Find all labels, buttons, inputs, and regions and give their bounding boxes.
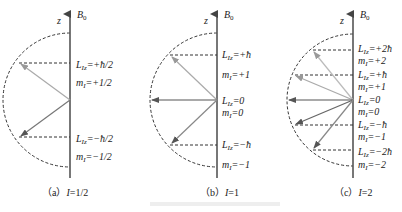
spin-vector-minus1 bbox=[296, 100, 353, 124]
panel-a: z B0 LIz=+ħ/2 mI=+1/2 LIz=−ħ/2 mI=−1/2 （… bbox=[3, 9, 113, 198]
spin-vector-minus2 bbox=[314, 100, 353, 148]
state-label-m: mI=−1 bbox=[358, 131, 386, 144]
spin-vector-up bbox=[21, 64, 70, 100]
state-label-lz: LIz=−ħ bbox=[221, 139, 251, 152]
panel-caption: （c）I=2 bbox=[334, 187, 372, 198]
panel-c: z B0 LIz=+2ħ mI=+2 LIz=+ħ mI=+1 LIz=0 mI… bbox=[287, 9, 392, 198]
z-axis-label: z bbox=[203, 15, 208, 26]
spin-vector-up bbox=[172, 57, 217, 100]
state-label-m: mI=+1/2 bbox=[76, 77, 112, 90]
panel-b: z B0 LIz=+ħ mI=+1 LIz=0 mI=0 LIz=−ħ mI=−… bbox=[150, 9, 251, 198]
state-label-lz: LIz=+ħ bbox=[221, 49, 251, 62]
spin-vector-down bbox=[21, 100, 70, 136]
b0-label: B0 bbox=[77, 9, 87, 22]
z-axis-label: z bbox=[56, 15, 61, 26]
panel-caption: （a）I=1/2 bbox=[42, 187, 88, 198]
spin-vector-plus1 bbox=[296, 76, 353, 100]
state-label-lz: LIz=−ħ/2 bbox=[75, 133, 113, 146]
state-label-m: mI=+1 bbox=[222, 69, 250, 82]
figure-caption-faint bbox=[150, 202, 280, 206]
spin-vector-plus2 bbox=[314, 52, 353, 100]
state-label-m: mI=0 bbox=[222, 107, 243, 120]
b0-label: B0 bbox=[224, 9, 234, 22]
state-label-lz: LIz=+ħ/2 bbox=[75, 59, 113, 72]
spin-vector-down bbox=[172, 100, 217, 143]
z-axis-label: z bbox=[339, 15, 344, 26]
b0-label: B0 bbox=[360, 9, 370, 22]
state-label-m: mI=−1/2 bbox=[76, 151, 112, 164]
dashed-semicircle bbox=[3, 33, 70, 167]
state-label-m: mI=−2 bbox=[358, 159, 386, 172]
state-label-m: mI=−1 bbox=[222, 159, 250, 172]
state-label-m: mI=+2 bbox=[358, 55, 386, 68]
state-label-m: mI=0 bbox=[358, 106, 379, 119]
panel-caption: （b）I=1 bbox=[200, 187, 239, 198]
state-label-m: mI=+1 bbox=[358, 81, 386, 94]
state-label-lz: LIz=−2ħ bbox=[357, 146, 392, 159]
nuclear-spin-orientation-diagram: z B0 LIz=+ħ/2 mI=+1/2 LIz=−ħ/2 mI=−1/2 （… bbox=[0, 0, 402, 212]
